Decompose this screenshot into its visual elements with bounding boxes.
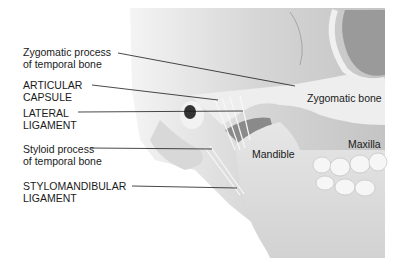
callout-line2: of temporal bone bbox=[23, 155, 102, 167]
callout-line1: STYLOMANDIBULAR bbox=[23, 180, 126, 192]
callout-articular-capsule: ARTICULAR CAPSULE bbox=[23, 79, 82, 103]
callout-line1: ARTICULAR bbox=[23, 79, 82, 91]
callout-styloid-process: Styloid process of temporal bone bbox=[23, 143, 102, 167]
callout-line2: CAPSULE bbox=[23, 91, 82, 103]
callout-stylomandibular-ligament: STYLOMANDIBULAR LIGAMENT bbox=[23, 180, 126, 204]
callout-line1: Zygomatic process bbox=[23, 46, 111, 58]
callout-zygomatic-process: Zygomatic process of temporal bone bbox=[23, 46, 111, 70]
callout-line2: of temporal bone bbox=[23, 58, 111, 70]
skull-illustration bbox=[0, 0, 397, 271]
label-maxilla: Maxilla bbox=[348, 138, 381, 150]
label-mandible: Mandible bbox=[252, 148, 295, 160]
callout-line1: LATERAL bbox=[23, 107, 77, 119]
label-zygomatic-bone: Zygomatic bone bbox=[307, 92, 382, 104]
callout-line2: LIGAMENT bbox=[23, 192, 126, 204]
callout-lateral-ligament: LATERAL LIGAMENT bbox=[23, 107, 77, 131]
callout-line2: LIGAMENT bbox=[23, 119, 77, 131]
callout-line1: Styloid process bbox=[23, 143, 102, 155]
